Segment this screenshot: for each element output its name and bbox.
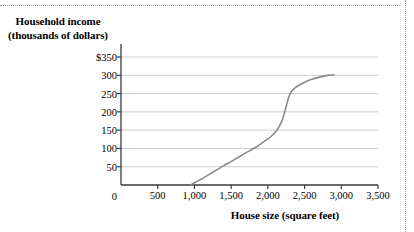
- y-axis-tick-label: $350: [57, 52, 117, 63]
- x-axis-title: House size (square feet): [180, 209, 390, 221]
- y-axis-tick-label: 300: [57, 70, 117, 81]
- chart-figure: Household income (thousands of dollars) …: [0, 0, 414, 232]
- origin-tick-label: 0: [57, 191, 117, 202]
- x-axis-tick-label: 3,500: [354, 190, 402, 201]
- y-axis-tick-label: 200: [57, 106, 117, 117]
- y-axis-tick-label: 100: [57, 143, 117, 154]
- y-axis-tick-label: 150: [57, 125, 117, 136]
- y-axis-tick-label: 50: [57, 161, 117, 172]
- y-axis-tick-label: 250: [57, 88, 117, 99]
